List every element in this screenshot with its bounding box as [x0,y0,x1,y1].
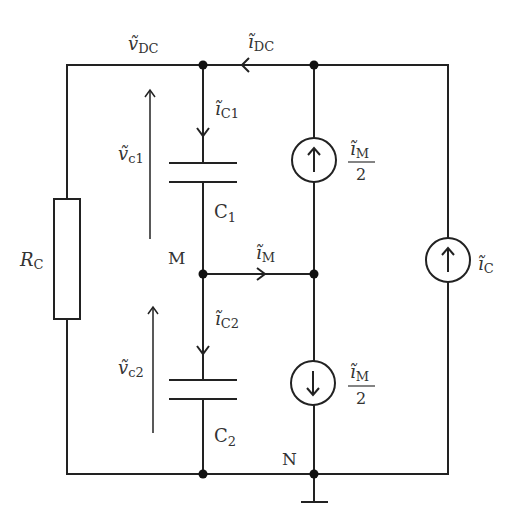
svg-text:2: 2 [356,165,366,184]
node-top-left [199,61,208,70]
label-i-c: ĩC [478,253,494,276]
node-bottom-left [199,470,208,479]
label-c1: C1 [214,201,236,225]
capacitor-c1 [169,163,237,182]
node-m [199,270,208,279]
current-source-bottom [291,361,335,405]
svg-text:ĩM: ĩM [350,361,369,384]
label-src-top-fraction: ĩM 2 [348,138,375,184]
current-source-top [292,138,336,182]
label-v-c2: ṽc2 [118,357,144,380]
label-i-m: ĩM [256,242,275,265]
label-c2: C2 [214,425,236,449]
capacitor-c2 [169,380,237,399]
label-src-bottom-fraction: ĩM 2 [348,361,375,408]
label-n-node: N [282,449,297,469]
label-i-dc: ĩDC [248,31,274,54]
circuit-diagram: ṽDC ĩDC ĩC1 ṽc1 C1 M ĩM ĩC2 ṽc2 C2 N RC … [0,0,518,523]
label-m-node: M [168,248,185,268]
v-c1-arrow [145,90,155,239]
label-v-dc: ṽDC [128,33,159,56]
node-top-right [310,61,319,70]
label-rc: RC [19,249,44,272]
wires [67,65,448,502]
svg-text:ĩM: ĩM [350,138,369,161]
node-n [310,470,319,479]
resistor-rc [54,199,80,319]
node-m-right [310,270,319,279]
label-i-c2: ĩC2 [215,308,239,331]
label-v-c1: ṽc1 [118,143,144,166]
label-i-c1: ĩC1 [215,98,239,121]
bottom-wire [67,282,448,474]
current-source-ic [426,238,470,282]
v-c2-arrow [148,307,158,433]
svg-text:2: 2 [356,389,366,408]
